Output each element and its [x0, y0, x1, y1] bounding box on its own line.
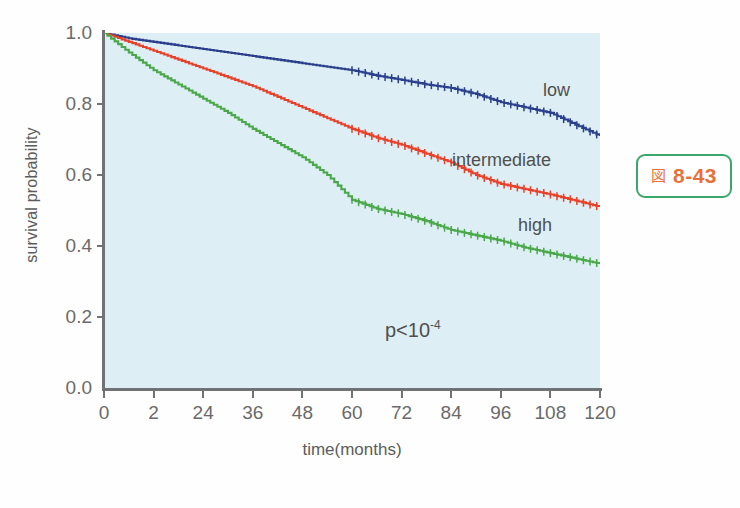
y-tick-label: 0.2 — [46, 306, 92, 328]
x-tick-mark — [252, 390, 254, 398]
figure-glyph-icon: 図 — [651, 169, 666, 184]
x-tick-label: 60 — [341, 402, 362, 424]
curve-line-intermediate — [104, 33, 600, 207]
x-tick-label: 48 — [292, 402, 313, 424]
x-tick-label: 120 — [584, 402, 616, 424]
x-tick-mark — [301, 390, 303, 398]
x-tick-label: 96 — [490, 402, 511, 424]
y-tick-label: 0.8 — [46, 93, 92, 115]
x-tick-label: 84 — [441, 402, 462, 424]
curve-intermediate — [104, 33, 600, 210]
x-tick-mark — [351, 390, 353, 398]
x-tick-label: 36 — [242, 402, 263, 424]
series-label-high: high — [518, 215, 552, 236]
x-tick-mark — [202, 390, 204, 398]
series-label-low: low — [543, 80, 570, 101]
x-tick-mark — [450, 390, 452, 398]
curve-low — [104, 33, 600, 138]
p-value-annotation: p<10-4 — [385, 318, 441, 342]
x-tick-mark — [401, 390, 403, 398]
y-axis-tick-labels: 0.00.20.40.60.81.0 — [46, 0, 92, 508]
x-axis-tick-marks — [0, 390, 740, 400]
y-tick-label: 0.4 — [46, 235, 92, 257]
x-tick-label: 72 — [391, 402, 412, 424]
y-tick-label: 0.6 — [46, 164, 92, 186]
figure-caption-number: 8-43 — [673, 164, 717, 188]
figure-root: 0.00.20.40.60.81.0 survival probability … — [0, 0, 740, 508]
x-tick-mark — [153, 390, 155, 398]
y-tick-label: 1.0 — [46, 22, 92, 44]
x-tick-mark — [103, 390, 105, 398]
x-tick-label: 2 — [148, 402, 159, 424]
p-value-exponent: -4 — [430, 318, 441, 332]
x-tick-label: 108 — [535, 402, 567, 424]
series-label-intermediate: intermediate — [452, 150, 551, 171]
x-tick-mark — [599, 390, 601, 398]
survival-curves — [104, 33, 600, 388]
x-tick-mark — [500, 390, 502, 398]
x-tick-label: 24 — [193, 402, 214, 424]
x-tick-label: 0 — [99, 402, 110, 424]
x-tick-mark — [549, 390, 551, 398]
figure-caption-badge: 図 8-43 — [636, 154, 732, 198]
y-axis-title: survival probability — [23, 95, 41, 295]
x-axis-title: time(months) — [104, 440, 600, 460]
